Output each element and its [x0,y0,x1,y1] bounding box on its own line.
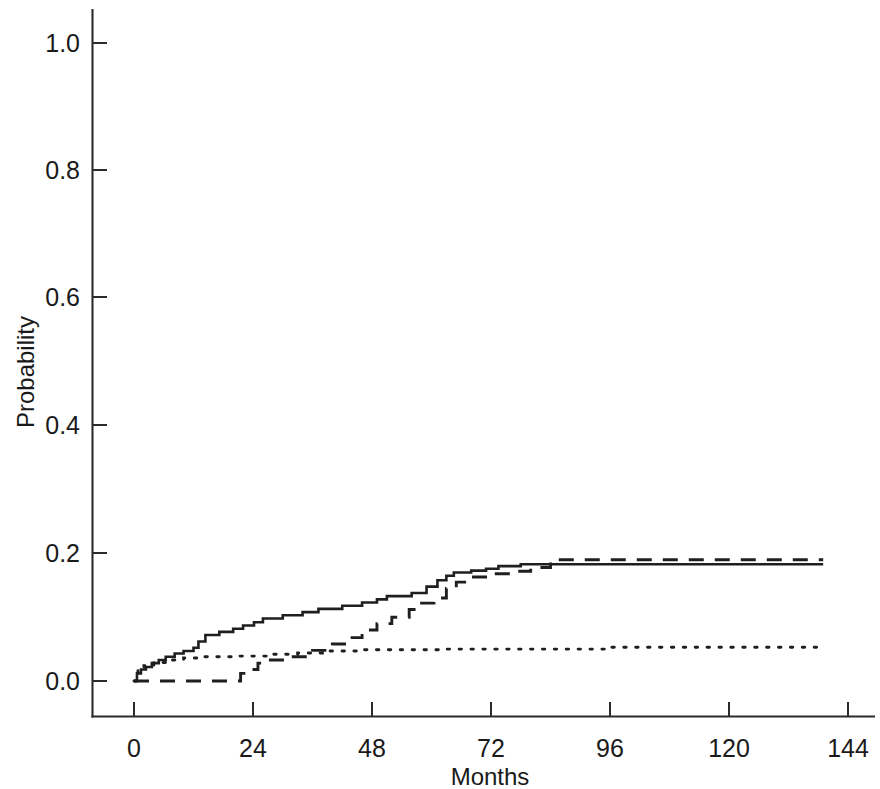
x-tick-label-120: 120 [708,734,750,762]
y-axis-title: Probability [12,316,39,428]
x-axis-ticks [134,702,848,717]
x-tick-label-96: 96 [596,734,624,762]
y-tick-label-0.8: 0.8 [45,156,80,184]
y-axis-ticks [93,43,108,681]
x-tick-label-0: 0 [127,734,141,762]
x-axis-title: Months [451,763,530,789]
y-tick-label-0.2: 0.2 [45,539,80,567]
x-tick-label-24: 24 [239,734,267,762]
y-tick-label-0.6: 0.6 [45,283,80,311]
curve-dotted [134,647,823,681]
x-tick-label-144: 144 [827,734,869,762]
curve-dashed [134,560,823,681]
chart-canvas: 1.0 0.8 0.6 0.4 0.2 0.0 0 24 48 72 96 12… [0,0,880,789]
y-tick-label-1.0: 1.0 [45,29,80,57]
x-axis-tick-labels: 0 24 48 72 96 120 144 [127,734,869,762]
x-tick-label-48: 48 [358,734,386,762]
y-tick-label-0.4: 0.4 [45,411,80,439]
cumulative-incidence-figure: 1.0 0.8 0.6 0.4 0.2 0.0 0 24 48 72 96 12… [0,0,880,789]
y-tick-label-0.0: 0.0 [45,667,80,695]
y-axis-tick-labels: 1.0 0.8 0.6 0.4 0.2 0.0 [45,29,80,695]
x-tick-label-72: 72 [477,734,505,762]
curve-solid [134,564,823,681]
